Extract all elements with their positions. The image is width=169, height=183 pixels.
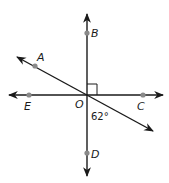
label-o: O [75, 98, 84, 111]
point-e [26, 92, 31, 97]
right-angle-marker [87, 84, 97, 95]
label-c: C [137, 100, 145, 113]
point-b [84, 30, 89, 35]
angle-label-62: 62° [91, 111, 109, 122]
line-ao [17, 57, 153, 131]
point-d [84, 150, 89, 155]
point-a [32, 63, 37, 68]
geometry-diagram: B D E C A O 62° [0, 0, 169, 183]
label-b: B [91, 27, 99, 40]
label-a: A [36, 51, 45, 64]
point-c [140, 92, 145, 97]
label-e: E [24, 100, 31, 113]
label-d: D [91, 148, 99, 161]
